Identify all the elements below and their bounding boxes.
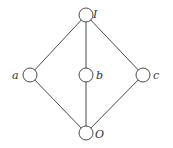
label-c: c	[153, 69, 159, 82]
node-b	[79, 68, 93, 82]
label-a: a	[12, 69, 19, 82]
node-bottom-O	[79, 126, 93, 140]
edge-I-c	[86, 15, 143, 75]
label-b: b	[96, 69, 103, 82]
edge-I-a	[30, 15, 86, 75]
node-top-I	[79, 8, 93, 22]
edge-a-O	[30, 75, 86, 133]
label-I: I	[92, 8, 98, 21]
hasse-diagram: I a b c O	[0, 0, 173, 148]
node-a	[23, 68, 37, 82]
edge-c-O	[86, 75, 143, 133]
node-c	[136, 68, 150, 82]
label-O: O	[95, 128, 104, 141]
